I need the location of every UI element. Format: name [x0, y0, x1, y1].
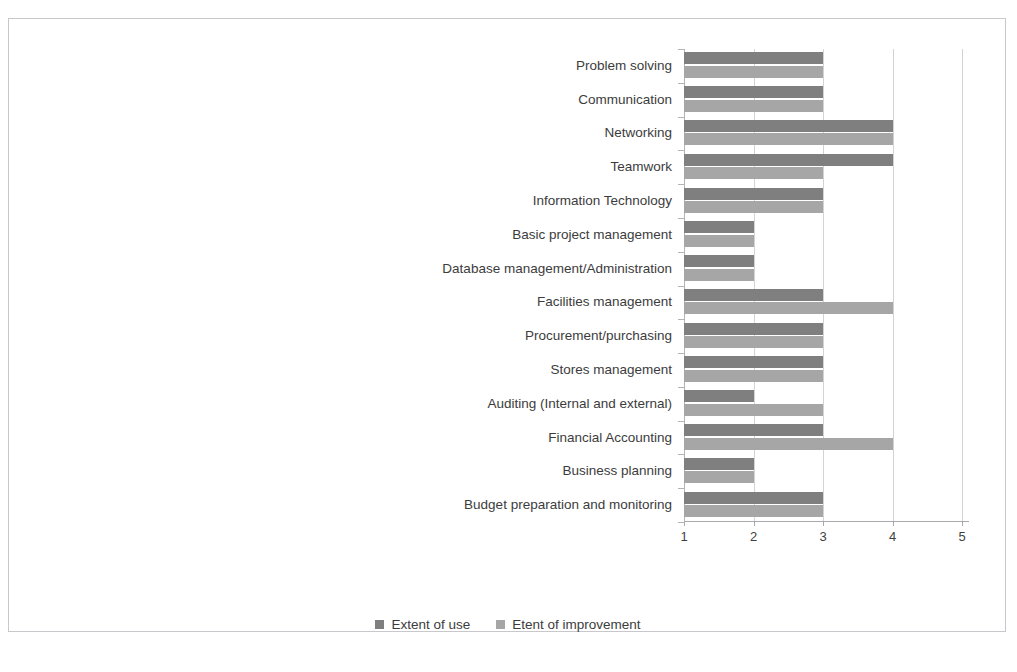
scan-bleed-top	[0, 0, 1017, 14]
category-label: Business planning	[252, 464, 672, 478]
bar-extent-of-improvement	[684, 438, 893, 450]
y-tick	[678, 83, 684, 84]
chart-frame: 12345Problem solvingCommunicationNetwork…	[8, 18, 1006, 632]
y-tick	[678, 286, 684, 287]
bar-extent-of-improvement	[684, 235, 754, 247]
bar-extent-of-use	[684, 458, 754, 470]
legend-swatch-icon	[375, 620, 384, 629]
legend-swatch-icon	[496, 620, 505, 629]
bar-extent-of-improvement	[684, 505, 823, 517]
figure-caption	[0, 652, 1017, 668]
y-tick	[678, 218, 684, 219]
y-tick	[678, 49, 684, 50]
bar-extent-of-use	[684, 86, 823, 98]
x-tick-label-2: 2	[739, 529, 769, 544]
category-label: Financial Accounting	[252, 431, 672, 445]
category-label: Basic project management	[252, 228, 672, 242]
gridline-4	[893, 49, 894, 521]
x-tick-label-4: 4	[878, 529, 908, 544]
gridline-5	[962, 49, 963, 521]
bar-extent-of-use	[684, 323, 823, 335]
category-label: Stores management	[252, 363, 672, 377]
bar-extent-of-use	[684, 188, 823, 200]
x-tick-label-1: 1	[669, 529, 699, 544]
bar-extent-of-use	[684, 52, 823, 64]
category-label: Procurement/purchasing	[252, 329, 672, 343]
bar-extent-of-improvement	[684, 66, 823, 78]
y-tick	[678, 150, 684, 151]
legend-item: Etent of improvement	[496, 617, 640, 632]
bar-extent-of-improvement	[684, 201, 823, 213]
category-label: Auditing (Internal and external)	[252, 397, 672, 411]
y-tick	[678, 184, 684, 185]
category-label: Teamwork	[252, 160, 672, 174]
chart-legend: Extent of useEtent of improvement	[9, 617, 1007, 632]
y-tick	[678, 522, 684, 523]
category-label: Communication	[252, 93, 672, 107]
bar-extent-of-use	[684, 356, 823, 368]
category-label: Budget preparation and monitoring	[252, 498, 672, 512]
bar-extent-of-improvement	[684, 471, 754, 483]
bar-extent-of-improvement	[684, 370, 823, 382]
legend-label: Etent of improvement	[512, 617, 640, 632]
y-tick	[678, 117, 684, 118]
bar-extent-of-improvement	[684, 404, 823, 416]
category-label: Facilities management	[252, 295, 672, 309]
bar-extent-of-use	[684, 221, 754, 233]
legend-label: Extent of use	[391, 617, 470, 632]
category-label: Database management/Administration	[252, 262, 672, 276]
bar-extent-of-improvement	[684, 133, 893, 145]
bar-extent-of-improvement	[684, 100, 823, 112]
bar-extent-of-use	[684, 154, 893, 166]
bar-extent-of-use	[684, 120, 893, 132]
bar-extent-of-use	[684, 424, 823, 436]
category-label: Networking	[252, 126, 672, 140]
plot-area: 12345Problem solvingCommunicationNetwork…	[9, 19, 1007, 633]
x-tick-label-5: 5	[947, 529, 977, 544]
x-tick-label-3: 3	[808, 529, 838, 544]
legend-item: Extent of use	[375, 617, 470, 632]
bar-extent-of-improvement	[684, 302, 893, 314]
bar-extent-of-improvement	[684, 269, 754, 281]
bar-extent-of-use	[684, 390, 754, 402]
y-tick	[678, 319, 684, 320]
bar-extent-of-use	[684, 492, 823, 504]
category-label: Information Technology	[252, 194, 672, 208]
y-tick	[678, 252, 684, 253]
y-tick	[678, 488, 684, 489]
bar-extent-of-improvement	[684, 167, 823, 179]
category-label: Problem solving	[252, 59, 672, 73]
y-tick	[678, 353, 684, 354]
x-axis-line	[684, 521, 969, 522]
bar-extent-of-use	[684, 255, 754, 267]
y-tick	[678, 387, 684, 388]
bar-extent-of-use	[684, 289, 823, 301]
y-tick	[678, 454, 684, 455]
y-tick	[678, 421, 684, 422]
bar-extent-of-improvement	[684, 336, 823, 348]
